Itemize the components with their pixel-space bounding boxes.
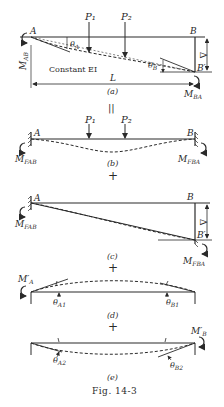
tangent-at-a (31, 343, 62, 352)
theta-b-label: θB (148, 61, 158, 71)
theta-b2-tick (165, 338, 166, 342)
moment-ba-label: MBA (183, 89, 203, 100)
panel-e: θA2 θB2 M′B (e) (31, 326, 207, 382)
moment-fba-label: MFBA (182, 256, 206, 267)
moment-b-icon (199, 337, 204, 347)
panel-c: A B B′ Δ MFAB MFBA (c) (14, 192, 212, 267)
load-p1-label: P₁ (84, 11, 96, 22)
panel-d-label: (d) (107, 311, 118, 320)
plus-operator: + (108, 169, 118, 183)
theta-a1-tick (56, 281, 57, 285)
figure-caption: Fig. 14-3 (92, 386, 137, 396)
panel-e-label: (e) (107, 373, 118, 382)
plus-operator: + (108, 320, 118, 334)
equals-operator: || (108, 102, 115, 114)
moment-ab-label: MAB (18, 51, 29, 71)
deflected-shape (31, 139, 195, 152)
moment-a-label: M′A (17, 274, 34, 285)
node-b-label: B (186, 192, 194, 202)
load-p1-label: P₁ (84, 114, 96, 125)
panel-c-label: (c) (107, 252, 118, 261)
theta-a2-tick (58, 338, 59, 342)
theta-a2-label: θA2 (53, 356, 66, 366)
panel-a-label: (a) (107, 87, 118, 96)
theta-a1-label: θA1 (53, 298, 66, 308)
node-b-label: B (189, 26, 197, 36)
moment-fba-icon (202, 244, 207, 254)
moment-fab-icon (20, 143, 25, 153)
moment-a-icon (21, 286, 26, 296)
moment-fab-icon (20, 207, 25, 217)
span-label: L (109, 73, 116, 83)
node-b-prime-label: B′ (196, 230, 206, 240)
settlement-label: Δ (198, 52, 208, 59)
moment-ba-icon (194, 76, 199, 86)
node-b-label: B (186, 128, 194, 138)
tangent-at-b (158, 343, 195, 357)
moment-ab-icon (22, 33, 27, 43)
tangent-at-b (160, 283, 195, 292)
settlement-label: Δ (198, 219, 208, 226)
moment-fab-label: MFAB (14, 219, 37, 230)
panel-b: P₁ P₂ A B MFAB MFBA (b) (14, 114, 206, 168)
node-a-label: A (33, 128, 41, 138)
moment-b-label: M′B (190, 326, 207, 337)
plus-operator: + (108, 261, 118, 275)
fixed-beam-superposition-diagram: P₁ P₂ A B B′ θA θB Δ Constant EI L (a) M… (0, 0, 224, 407)
theta-b2-label: θB2 (170, 361, 183, 371)
theta-b1-label: θB1 (166, 298, 179, 308)
node-b-prime-label: B′ (196, 63, 206, 73)
moment-fba-label: MFBA (177, 154, 201, 165)
panel-d: θA1 θB1 M′A (d) (17, 274, 195, 320)
load-p2-label: P₂ (120, 114, 132, 125)
node-a-label: A (29, 26, 37, 36)
tangent-at-b (160, 58, 195, 72)
node-a-label: A (33, 193, 41, 203)
tangent-at-a (31, 279, 68, 292)
deflected-shape (31, 281, 195, 292)
moment-fba-icon (201, 143, 206, 153)
constant-ei-note: Constant EI (49, 65, 97, 74)
theta-b2-arrow (168, 356, 171, 360)
theta-a-label: θA (70, 40, 80, 50)
panel-b-label: (b) (107, 159, 118, 168)
panel-a: P₁ P₂ A B B′ θA θB Δ Constant EI L (a) M… (18, 11, 212, 100)
load-p2-label: P₂ (120, 11, 132, 22)
moment-fab-label: MFAB (14, 154, 37, 165)
